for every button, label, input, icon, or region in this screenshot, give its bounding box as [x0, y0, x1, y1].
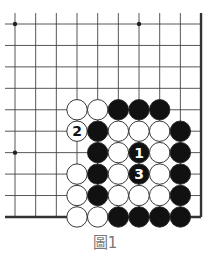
white-stone — [108, 121, 128, 141]
black-stone-icon — [87, 142, 107, 162]
black-stone-icon — [170, 121, 190, 141]
black-stone: 1 — [129, 142, 149, 162]
white-stone — [87, 207, 107, 227]
white-stone — [67, 185, 87, 205]
figure-caption: 圖1 — [0, 231, 210, 252]
white-stone — [67, 100, 87, 120]
black-stone-icon — [149, 100, 169, 120]
white-stone — [108, 142, 128, 162]
white-stone — [149, 142, 169, 162]
go-board: 213 — [0, 0, 210, 230]
black-stone — [170, 207, 190, 227]
black-stone — [129, 207, 149, 227]
move-number-label: 2 — [72, 123, 82, 139]
black-stone — [170, 121, 190, 141]
white-stone — [87, 100, 107, 120]
white-stone — [67, 207, 87, 227]
white-stone — [149, 164, 169, 184]
black-stone — [87, 121, 107, 141]
black-stone-icon — [108, 207, 128, 227]
white-stone — [108, 164, 128, 184]
white-stone-icon — [149, 142, 169, 162]
white-stone-icon — [149, 121, 169, 141]
black-stone-icon — [170, 142, 190, 162]
black-stone — [87, 142, 107, 162]
black-stone: 3 — [129, 164, 149, 184]
white-stone — [67, 164, 87, 184]
white-stone — [149, 121, 169, 141]
black-stone — [129, 100, 149, 120]
white-stone-icon — [129, 121, 149, 141]
black-stone-icon — [170, 185, 190, 205]
black-stone-icon — [87, 185, 107, 205]
black-stone — [108, 100, 128, 120]
black-stone — [170, 164, 190, 184]
white-stone — [129, 121, 149, 141]
white-stone-icon — [67, 100, 87, 120]
black-stone-icon — [129, 207, 149, 227]
black-stone — [108, 207, 128, 227]
black-stone-icon — [108, 100, 128, 120]
white-stone — [108, 185, 128, 205]
black-stone-icon — [149, 207, 169, 227]
white-stone-icon — [149, 164, 169, 184]
black-stone-icon — [170, 164, 190, 184]
white-stone-icon — [108, 185, 128, 205]
black-stone — [87, 164, 107, 184]
star-point-icon — [13, 22, 17, 26]
black-stone — [149, 207, 169, 227]
white-stone-icon — [87, 207, 107, 227]
white-stone-icon — [149, 185, 169, 205]
white-stone — [129, 185, 149, 205]
white-stone-icon — [87, 100, 107, 120]
black-stone — [149, 100, 169, 120]
move-number-label: 3 — [134, 166, 144, 182]
white-stone: 2 — [67, 121, 87, 141]
star-point-icon — [13, 150, 17, 154]
white-stone — [149, 185, 169, 205]
black-stone — [170, 142, 190, 162]
white-stone-icon — [67, 164, 87, 184]
move-number-label: 1 — [134, 145, 144, 161]
stones-layer: 213 — [67, 100, 191, 228]
white-stone-icon — [108, 164, 128, 184]
black-stone — [87, 185, 107, 205]
black-stone-icon — [87, 121, 107, 141]
black-stone — [170, 185, 190, 205]
star-point-icon — [137, 22, 141, 26]
white-stone-icon — [108, 121, 128, 141]
white-stone-icon — [67, 207, 87, 227]
black-stone-icon — [170, 207, 190, 227]
white-stone-icon — [108, 142, 128, 162]
white-stone-icon — [67, 185, 87, 205]
black-stone-icon — [129, 100, 149, 120]
white-stone-icon — [129, 185, 149, 205]
black-stone-icon — [87, 164, 107, 184]
